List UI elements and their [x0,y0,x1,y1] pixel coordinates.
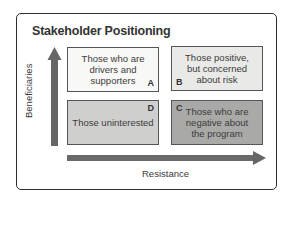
quadrant-a-line: Those who are [82,53,145,64]
quadrant-b-letter: B [176,77,183,88]
quadrant-d: Those uninterested D [67,100,159,145]
horizontal-arrow-icon [67,151,266,165]
quadrant-c-line: negative about [186,117,249,128]
quadrant-b-line: but concerned [185,63,249,74]
y-axis-label: Beneficiaries [23,64,34,118]
quadrant-c-text: Those who are negative about the program [186,106,249,139]
quadrant-b-text: Those positive, but concerned about risk [185,52,249,85]
quadrant-c-letter: C [176,103,183,114]
quadrant-a-text: Those who are drivers and supporters [82,53,145,86]
quadrant-c-line: the program [186,128,249,139]
vertical-arrow-icon [48,47,62,146]
quadrant-a: Those who are drivers and supporters A [67,47,159,92]
quadrant-b-line: about risk [185,74,249,85]
quadrant-d-letter: D [148,103,155,114]
x-axis-label: Resistance [0,168,295,179]
quadrant-a-line: drivers and [82,64,145,75]
quadrant-a-letter: A [148,78,155,89]
quadrant-d-line: Those uninterested [72,117,153,128]
quadrant-a-line: supporters [82,75,145,86]
quadrant-b: Those positive, but concerned about risk… [171,46,263,91]
quadrant-b-line: Those positive, [185,52,249,63]
quadrant-d-text: Those uninterested [72,117,153,128]
quadrant-c-line: Those who are [186,106,249,117]
quadrant-c: Those who are negative about the program… [171,100,263,145]
